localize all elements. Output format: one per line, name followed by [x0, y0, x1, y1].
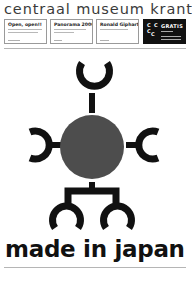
teaser-body — [54, 29, 89, 34]
footer-divider — [4, 267, 186, 268]
teaser-body — [100, 29, 135, 34]
teaser-page-ref — [8, 40, 20, 41]
masthead-title: centraal museum krant — [4, 1, 192, 17]
promo-gratis[interactable]: C C C C GRATIS — [143, 19, 186, 44]
cover-headline: made in japan — [5, 236, 185, 262]
teaser-title: Open, open!! — [8, 22, 43, 27]
teaser-title: Panorama 2000 — [54, 22, 89, 27]
teaser-panorama-2000[interactable]: Panorama 2000 — [50, 19, 93, 44]
header-divider — [4, 48, 186, 49]
teaser-row: Open, open!! Panorama 2000 Ronald Giphar… — [4, 19, 186, 46]
teaser-page-ref — [100, 40, 109, 41]
kamon-emblem-icon — [0, 55, 192, 235]
teaser-open-open[interactable]: Open, open!! — [4, 19, 47, 44]
emblem-circle — [60, 115, 124, 179]
teaser-body — [8, 29, 43, 34]
teaser-page-ref — [54, 40, 62, 41]
teaser-ronald-giphart[interactable]: Ronald Giphart — [96, 19, 139, 44]
cmk-logo-icon: C C C C — [147, 23, 159, 37]
promo-label: GRATIS — [161, 23, 183, 29]
teaser-title: Ronald Giphart — [100, 22, 135, 27]
